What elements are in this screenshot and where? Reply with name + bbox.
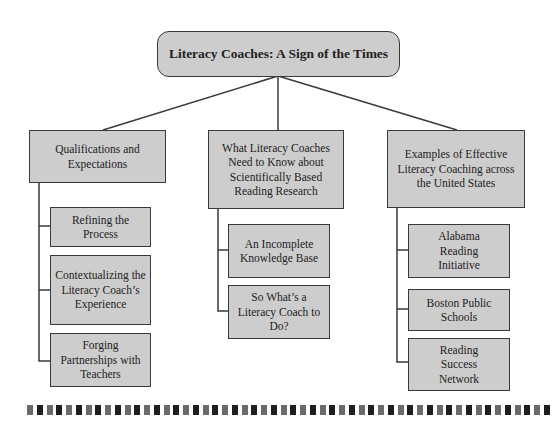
dash-segment [183, 405, 189, 415]
decorative-dash-bar [27, 405, 554, 415]
dash-segment [37, 405, 43, 415]
dash-segment [203, 405, 209, 415]
dash-segment [47, 405, 53, 415]
dash-segment [144, 405, 150, 415]
dash-segment [115, 405, 121, 415]
dash-segment [271, 405, 277, 415]
dash-segment [407, 405, 413, 415]
dash-segment [232, 405, 238, 415]
branch-label: Examples of Effective Literacy Coaching … [392, 147, 520, 191]
dash-segment [466, 405, 472, 415]
dash-segment [300, 405, 306, 415]
node-so-whats: So What’s a Literacy Coach to Do? [228, 285, 330, 339]
branch-label: What Literacy Coaches Need to Know about… [213, 141, 339, 199]
node-boston: Boston Public Schools [408, 289, 510, 331]
dash-segment [281, 405, 287, 415]
node-alabama: Alabama Reading Initiative [408, 224, 510, 278]
dash-segment [56, 405, 62, 415]
dash-segment [310, 405, 316, 415]
branch-label: Qualifications and Expectations [48, 142, 148, 171]
dash-segment [456, 405, 462, 415]
dash-segment [154, 405, 160, 415]
dash-segment [368, 405, 374, 415]
dash-segment [388, 405, 394, 415]
dash-segment [427, 405, 433, 415]
dash-segment [95, 405, 101, 415]
dash-segment [261, 405, 267, 415]
dash-segment [86, 405, 92, 415]
dash-segment [251, 405, 257, 415]
dash-segment [222, 405, 228, 415]
dash-segment [76, 405, 82, 415]
dash-segment [417, 405, 423, 415]
dash-segment [164, 405, 170, 415]
node-label: Boston Public Schools [417, 296, 501, 325]
dash-segment [485, 405, 491, 415]
dash-segment [27, 405, 33, 415]
dash-segment [544, 405, 550, 415]
dash-segment [349, 405, 355, 415]
dash-segment [339, 405, 345, 415]
dash-segment [242, 405, 248, 415]
dash-segment [476, 405, 482, 415]
dash-segment [437, 405, 443, 415]
branch-qualifications: Qualifications and Expectations [29, 130, 166, 183]
node-label: Forging Partnerships with Teachers [55, 338, 146, 382]
dash-segment [524, 405, 530, 415]
branch-sbrr: What Literacy Coaches Need to Know about… [208, 130, 344, 209]
root-node: Literacy Coaches: A Sign of the Times [157, 31, 400, 77]
node-label: Alabama Reading Initiative [424, 229, 494, 273]
dash-segment [105, 405, 111, 415]
node-label: Refining the Process [61, 213, 141, 242]
dash-segment [495, 405, 501, 415]
dash-segment [398, 405, 404, 415]
node-label: Reading Success Network [429, 343, 489, 387]
dash-segment [446, 405, 452, 415]
node-reading-success: Reading Success Network [408, 338, 510, 391]
node-contextualizing: Contextualizing the Literacy Coach’s Exp… [50, 255, 151, 325]
node-label: So What’s a Literacy Coach to Do? [237, 290, 321, 334]
dash-segment [378, 405, 384, 415]
dash-segment [290, 405, 296, 415]
dash-segment [359, 405, 365, 415]
node-refining-process: Refining the Process [50, 207, 151, 247]
dash-segment [320, 405, 326, 415]
dash-segment [125, 405, 131, 415]
dash-segment [212, 405, 218, 415]
dash-segment [534, 405, 540, 415]
dash-segment [66, 405, 72, 415]
node-forging-partnerships: Forging Partnerships with Teachers [50, 333, 151, 387]
dash-segment [515, 405, 521, 415]
dash-segment [173, 405, 179, 415]
branch-examples: Examples of Effective Literacy Coaching … [387, 130, 525, 208]
dash-segment [193, 405, 199, 415]
node-label: An Incomplete Knowledge Base [239, 237, 319, 266]
node-incomplete-knowledge: An Incomplete Knowledge Base [228, 224, 330, 278]
root-label: Literacy Coaches: A Sign of the Times [169, 47, 388, 62]
dash-segment [329, 405, 335, 415]
dash-segment [134, 405, 140, 415]
dash-segment [505, 405, 511, 415]
node-label: Contextualizing the Literacy Coach’s Exp… [55, 268, 146, 312]
